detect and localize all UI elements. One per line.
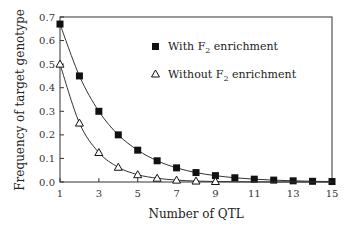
x-tick-label: 7 [173,188,179,199]
data-point-square [309,178,316,185]
data-point-triangle [114,163,122,170]
y-tick-label: 0.5 [39,59,55,70]
x-tick-label: 1 [57,188,63,199]
data-point-square [95,108,102,115]
legend-triangle-marker [152,70,160,77]
legend-square-marker [152,43,159,50]
x-tick-label: 11 [248,188,261,199]
data-point-square [154,157,161,164]
series-line-1 [60,64,332,182]
data-point-square [290,177,297,184]
data-point-square [231,174,238,181]
data-point-square [173,164,180,171]
y-tick-label: 0.6 [39,35,55,46]
legend-with-f2: With F2 enrichment [168,40,278,55]
data-point-square [270,177,277,184]
data-point-square [115,131,122,138]
x-tick-label: 15 [326,188,339,199]
y-tick-label: 0.1 [39,153,55,164]
x-axis-label: Number of QTL [148,207,243,221]
x-tick-label: 3 [96,188,102,199]
y-tick-label: 0.7 [39,12,55,23]
data-point-square [57,21,64,28]
y-tick-label: 0.3 [39,106,55,117]
y-tick-label: 0.0 [39,177,55,188]
y-tick-label: 0.4 [39,82,55,93]
data-point-triangle [75,119,83,126]
legend: With F2 enrichment Without F2 enrichment [152,40,297,83]
data-point-square [134,147,141,154]
data-point-square [76,72,83,79]
x-tick-label: 9 [212,188,218,199]
legend-without-f2: Without F2 enrichment [168,68,297,83]
x-tick-label: 5 [135,188,141,199]
data-point-square [193,169,200,176]
y-tick-label: 0.2 [39,129,55,140]
chart: 0.00.10.20.30.40.50.60.713579111315 With… [0,0,346,230]
x-tick-label: 13 [287,188,300,199]
y-axis-label: Frequency of target genotype [13,9,27,190]
